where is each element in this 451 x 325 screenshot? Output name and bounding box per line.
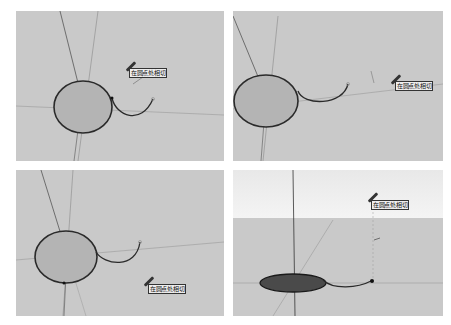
scene-drawing [16,170,224,316]
inference-tooltip: 在圆点处相切 [395,81,433,91]
scene-drawing [16,11,224,161]
viewport-step-4[interactable]: 在圆点处相切 [233,170,443,316]
tangent-point [111,97,114,100]
inference-tooltip: 在圆点处相切 [129,68,167,78]
tangent-point [63,282,66,285]
circle-face [234,75,298,127]
tangent-arc [112,98,153,116]
viewport-step-1[interactable]: 在圆点处相切 [16,11,224,161]
viewport-step-2[interactable]: 在圆点处相切 [233,11,443,161]
scene-drawing [233,170,443,316]
viewport-step-3[interactable]: 在圆点处相切 [16,170,224,316]
inference-tooltip: 在圆点处相切 [371,200,409,210]
tangent-point [370,279,374,283]
axis-blue-line [293,170,295,316]
axis-green-line [273,220,333,316]
tangent-arc [298,84,348,101]
tangent-arc [323,280,371,287]
circle-face [35,231,97,283]
inference-tooltip: 在圆点处相切 [148,284,186,294]
circle-face [260,274,326,292]
circle-face [54,81,112,133]
